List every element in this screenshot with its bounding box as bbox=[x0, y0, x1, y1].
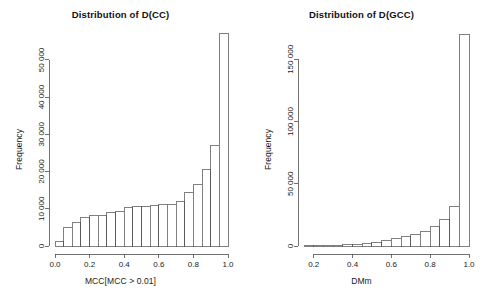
histogram-bar bbox=[124, 207, 133, 246]
histogram-bar bbox=[202, 169, 211, 246]
plot-area-left: 010 00020 00030 00040 00050 0000.00.20.4… bbox=[0, 0, 241, 300]
histogram-bar bbox=[116, 211, 125, 246]
histogram-bar bbox=[107, 213, 116, 246]
x-tick-label: 0.4 bbox=[119, 260, 131, 269]
plot-area-right: 050 000100 000150 0000.20.40.60.81.0 bbox=[241, 0, 482, 300]
histogram-bar bbox=[401, 237, 411, 246]
x-tick-label: 0.6 bbox=[153, 260, 165, 269]
x-tick-label: 0.4 bbox=[347, 260, 359, 269]
histogram-bar bbox=[55, 242, 64, 246]
histogram-bar bbox=[193, 185, 202, 246]
histogram-bar bbox=[420, 231, 430, 246]
histogram-bar bbox=[459, 34, 469, 246]
panel-d-cc: Distribution of D(CC) Frequency 010 0002… bbox=[0, 0, 241, 300]
y-tick-label: 0 bbox=[37, 243, 46, 248]
histogram-bar bbox=[98, 215, 107, 246]
histogram-bar bbox=[150, 205, 159, 246]
x-tick-label: 1.0 bbox=[222, 260, 234, 269]
histogram-bar bbox=[211, 146, 220, 246]
y-tick-label: 0 bbox=[286, 243, 295, 248]
y-tick-label: 40 000 bbox=[37, 84, 46, 109]
histogram-bar bbox=[219, 34, 228, 246]
y-tick-label: 100 000 bbox=[286, 107, 295, 136]
x-tick-label: 0.8 bbox=[188, 260, 200, 269]
histogram-bar bbox=[159, 204, 168, 246]
histogram-bar bbox=[133, 207, 142, 246]
y-tick-label: 50 000 bbox=[37, 47, 46, 72]
histogram-bar bbox=[411, 234, 421, 246]
histogram-bar bbox=[81, 218, 90, 246]
histogram-figure: Distribution of D(CC) Frequency 010 0002… bbox=[0, 0, 482, 300]
histogram-bar bbox=[90, 215, 99, 246]
y-tick-label: 30 000 bbox=[37, 122, 46, 147]
x-tick-label: 0.6 bbox=[386, 260, 398, 269]
histogram-bar bbox=[72, 222, 81, 246]
y-tick-label: 50 000 bbox=[286, 171, 295, 196]
x-tick-label: 0.8 bbox=[425, 260, 437, 269]
histogram-bar bbox=[450, 206, 460, 246]
histogram-bar bbox=[391, 239, 401, 246]
x-tick-label: 1.0 bbox=[463, 260, 475, 269]
histogram-bar bbox=[142, 206, 151, 246]
x-axis-label-right: DMm bbox=[241, 276, 482, 286]
histogram-bar bbox=[440, 219, 450, 246]
histogram-bar bbox=[185, 192, 194, 246]
histogram-bar bbox=[176, 201, 185, 246]
histogram-bar bbox=[353, 244, 363, 246]
y-tick-label: 20 000 bbox=[37, 159, 46, 184]
panel-d-gcc: Distribution of D(GCC) Frequency 050 000… bbox=[241, 0, 482, 300]
histogram-bar bbox=[64, 227, 73, 246]
histogram-bar bbox=[430, 227, 440, 246]
histogram-bar bbox=[343, 245, 353, 246]
x-tick-label: 0.0 bbox=[49, 260, 61, 269]
y-tick-label: 150 000 bbox=[286, 44, 295, 73]
histogram-bar bbox=[382, 241, 392, 246]
x-tick-label: 0.2 bbox=[84, 260, 96, 269]
histogram-bar bbox=[362, 243, 372, 246]
histogram-bar bbox=[167, 204, 176, 246]
histogram-bar bbox=[372, 242, 382, 246]
histogram-bar bbox=[333, 245, 343, 246]
histogram-bar bbox=[323, 245, 333, 246]
x-tick-label: 0.2 bbox=[308, 260, 320, 269]
y-tick-label: 10 000 bbox=[37, 196, 46, 221]
x-axis-label-left: MCC[MCC > 0.01] bbox=[0, 276, 241, 286]
